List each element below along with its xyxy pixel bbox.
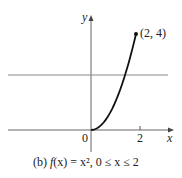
x-tick-label-2: 2 — [137, 131, 143, 146]
caption: (b) f(x) = x², 0 ≤ x ≤ 2 — [33, 155, 139, 170]
origin-label: 0 — [82, 131, 88, 146]
y-axis-arrow-icon — [89, 15, 94, 21]
point-label: (2, 4) — [140, 26, 166, 41]
x-axis-label: x — [167, 131, 172, 146]
caption-rest: (x) = x², 0 ≤ x ≤ 2 — [53, 155, 139, 169]
y-axis-label: y — [82, 10, 87, 25]
function-curve — [91, 34, 136, 130]
caption-prefix: (b) — [33, 155, 50, 169]
endpoint-marker — [134, 32, 138, 36]
